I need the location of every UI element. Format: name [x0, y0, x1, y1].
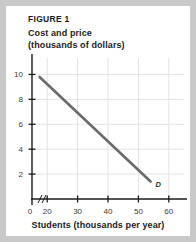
- y-tick-label: 10: [14, 70, 23, 79]
- data-series: [40, 77, 151, 182]
- y-tick-label: 4: [19, 145, 23, 154]
- x-tick-label: 60: [164, 207, 173, 216]
- tick-marks: [29, 74, 169, 202]
- chart-plot-area: [6, 6, 190, 236]
- x-tick-label: 30: [73, 207, 82, 216]
- x-tick-label: 20: [43, 207, 52, 216]
- y-tick-label: 6: [19, 120, 23, 129]
- y-tick-label: 2: [19, 170, 23, 179]
- origin-label: 0: [28, 207, 32, 216]
- gridlines: [32, 58, 184, 199]
- figure-panel: FIGURE 1 Cost and price (thousands of do…: [6, 6, 190, 236]
- axes: [31, 54, 187, 205]
- x-tick-label: 40: [104, 207, 113, 216]
- x-axis-title: Students (thousands per year): [6, 220, 190, 230]
- x-tick-label: 50: [134, 207, 143, 216]
- demand-curve-label: D: [155, 180, 160, 189]
- y-tick-label: 8: [19, 95, 23, 104]
- demand-curve-line: [40, 77, 151, 182]
